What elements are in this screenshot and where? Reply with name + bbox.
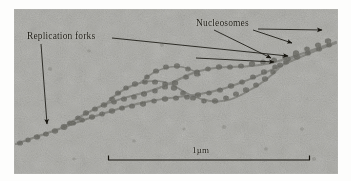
electron-micrograph-figure: Replication forks Nucleosomes 1µm: [0, 0, 351, 181]
nucleosomes-label: Nucleosomes: [196, 18, 249, 28]
scalebar-label: 1µm: [192, 145, 209, 155]
replication-forks-label: Replication forks: [27, 31, 95, 41]
